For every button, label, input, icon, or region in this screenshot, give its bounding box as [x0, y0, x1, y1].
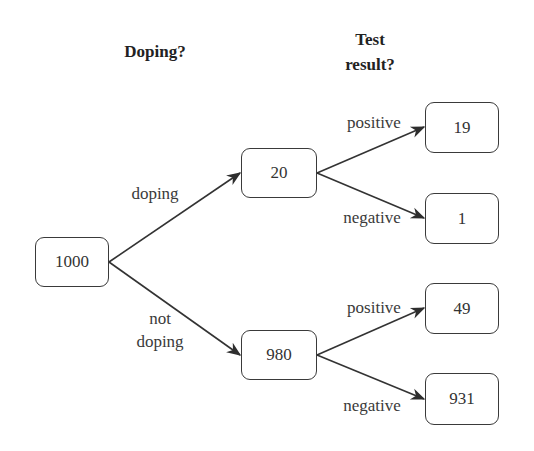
node-doping-positive-value: 19: [454, 118, 471, 138]
heading-test-result: Test result?: [320, 27, 420, 77]
edge-label-doping-negative: negative: [334, 206, 410, 229]
edge-label-not-doping-line2: doping: [125, 330, 195, 353]
node-not-doping-value: 980: [266, 345, 292, 365]
heading-test-line2: result?: [320, 52, 420, 77]
node-doping-value: 20: [271, 163, 288, 183]
edge-label-doping-positive-text: positive: [347, 113, 401, 132]
heading-doping: Doping?: [105, 39, 205, 64]
edge-label-not-doping-positive: positive: [338, 296, 410, 319]
edge-label-doping-text: doping: [131, 184, 178, 203]
node-doping-positive: 19: [425, 102, 499, 153]
edge-label-not-doping-line1: not: [125, 307, 195, 330]
edge-not-doping-to-negative: [317, 355, 424, 399]
node-doping-negative-value: 1: [458, 209, 467, 229]
node-root: 1000: [35, 237, 109, 287]
edge-label-doping-positive: positive: [338, 111, 410, 134]
node-doping-negative: 1: [425, 193, 499, 244]
edge-label-doping-negative-text: negative: [343, 208, 401, 227]
heading-test-line1: Test: [320, 27, 420, 52]
node-root-value: 1000: [55, 252, 89, 272]
edge-label-not-doping-negative-text: negative: [343, 396, 401, 415]
node-doping: 20: [241, 148, 317, 198]
probability-tree-diagram: Doping? Test result? 1000 20 980 19 1 49…: [0, 0, 534, 451]
edge-label-doping: doping: [120, 182, 190, 205]
node-not-doping-positive-value: 49: [454, 299, 471, 319]
node-not-doping-negative: 931: [425, 373, 499, 425]
edge-label-not-doping-negative: negative: [334, 394, 410, 417]
node-not-doping-negative-value: 931: [449, 389, 475, 409]
edge-label-not-doping: not doping: [125, 307, 195, 353]
edge-label-not-doping-positive-text: positive: [347, 298, 401, 317]
node-not-doping: 980: [241, 330, 317, 380]
node-not-doping-positive: 49: [425, 283, 499, 334]
heading-doping-text: Doping?: [124, 42, 185, 61]
